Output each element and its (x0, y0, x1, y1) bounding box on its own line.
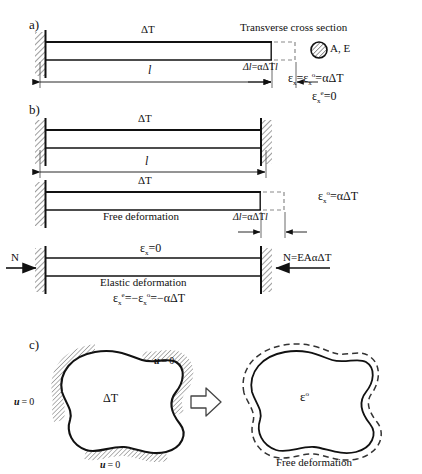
implies-arrow-icon (191, 388, 221, 416)
cross-section-title: Transverse cross section (240, 22, 347, 33)
fixed-support-b1-right (261, 118, 272, 166)
dimension-length-b1 (40, 150, 266, 178)
panel-b-beam2-temp-label: ΔT (138, 175, 152, 186)
free-elongation-ghost-a (274, 42, 295, 60)
panel-a-temp-label: ΔT (141, 24, 155, 35)
panel-b-beam2-caption: Free deformation (103, 211, 179, 222)
free-body-c (243, 344, 381, 460)
panel-b-beam3-equation: εxe=−εxo=−αΔT (113, 292, 185, 307)
panel-c-diagram (51, 344, 381, 462)
panel-b-force-right-label: N=EAαΔT (283, 252, 331, 263)
panel-b-force-left-label: N (11, 252, 19, 263)
beam-b2 (46, 192, 261, 210)
panel-c-result-caption: Free deformation (276, 457, 352, 468)
panel-b-beam2-equation: εxo=αΔT (318, 190, 358, 205)
panel-c-result-strain-label: εo (300, 390, 309, 403)
fixed-support-b3-left (35, 246, 46, 294)
fixed-support-b2-left (35, 180, 46, 228)
cross-section-props-label: A, E (330, 43, 350, 54)
section-label-b: b) (29, 103, 40, 116)
dimension-length-a (40, 62, 272, 88)
panel-c-body-temp-label: ΔT (103, 392, 118, 404)
beam-b1 (46, 130, 261, 148)
panel-a-equation-2: εxe=0 (312, 90, 336, 105)
panel-b-beam3-strain-label: εx=0 (140, 242, 161, 257)
panel-a-elongation-label: Δl=αΔTl (243, 62, 278, 72)
panel-b-beam3-caption: Elastic deformation (100, 277, 186, 288)
bc-label-top-right: u = 0 (154, 356, 174, 366)
section-label-a: a) (29, 18, 39, 31)
free-elongation-ghost-b2 (263, 192, 284, 210)
beam-b3 (46, 258, 261, 276)
section-label-c: c) (29, 338, 39, 351)
bc-label-left: u = 0 (14, 397, 34, 407)
fixed-support-b3-right (261, 246, 272, 294)
figure-canvas (0, 0, 422, 474)
panel-b-beam1-length-label: l (145, 155, 148, 167)
panel-b-beam2-elongation-label: Δl=αΔTl (233, 212, 268, 222)
bc-label-bottom: u = 0 (100, 460, 120, 470)
panel-b-beam1-temp-label: ΔT (138, 113, 152, 124)
panel-b-diagram (6, 118, 330, 294)
cross-section-circle-icon (311, 42, 327, 58)
constrained-body-c (61, 351, 183, 453)
beam-a (46, 42, 272, 60)
panel-a-equation-1: εx=εxo=αΔT (288, 72, 343, 87)
panel-a-length-label: l (148, 64, 151, 76)
panel-a-diagram (35, 30, 327, 88)
